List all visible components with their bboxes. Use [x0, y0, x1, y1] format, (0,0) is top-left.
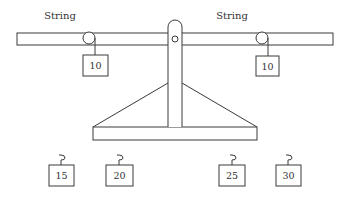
weight-value: 15: [55, 170, 67, 181]
hook-icon: [117, 155, 123, 165]
left-string-label: String: [44, 10, 76, 21]
loose-weight-25[interactable]: 25: [219, 155, 245, 186]
weight-value: 20: [113, 170, 125, 181]
weight-value: 30: [282, 170, 294, 181]
pivot-pin: [172, 36, 178, 42]
left-hanging-weight-value: 10: [89, 60, 101, 71]
hook-icon: [59, 155, 65, 165]
right-hanging-weight-value: 10: [261, 61, 273, 72]
right-pulley-icon: [256, 32, 268, 44]
hook-icon: [230, 155, 236, 165]
hook-icon: [286, 155, 292, 165]
loose-weight-30[interactable]: 30: [276, 155, 301, 186]
weight-value: 25: [226, 170, 238, 181]
balance-diagram: String String 10 10 15 20 25: [0, 0, 346, 198]
left-pulley-icon: [83, 32, 95, 44]
base-plank: [93, 127, 257, 140]
loose-weight-20[interactable]: 20: [106, 155, 133, 186]
right-string-label: String: [216, 10, 248, 21]
loose-weight-15[interactable]: 15: [49, 155, 74, 186]
